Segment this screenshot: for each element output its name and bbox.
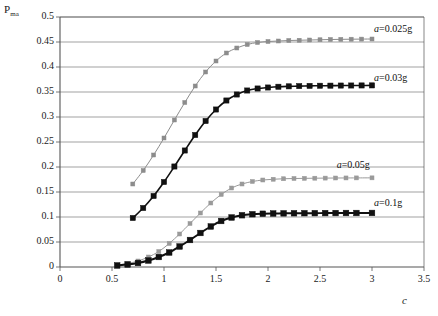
series-marker [125,262,131,268]
series-marker [250,211,256,217]
x-tick-label: 1.5 [196,274,236,284]
series-marker [234,92,239,97]
y-tick-label: 0.15 [37,186,55,196]
series-marker [317,83,322,88]
y-tick-label: 0.3 [42,111,55,121]
series-marker [224,51,228,55]
y-tick-label: 0.1 [42,211,55,221]
series-marker [157,250,161,254]
y-tick-label: 0.05 [37,236,55,246]
series-marker [312,210,318,216]
series-marker [276,84,281,89]
series-marker [265,85,270,90]
series-marker [166,250,172,256]
x-tick-label: 3 [352,274,392,284]
series-marker [130,215,135,220]
series-marker [114,263,120,269]
series-marker [338,83,343,88]
series-marker [318,38,322,42]
series-marker [369,83,374,88]
y-tick-label: 0 [49,261,54,271]
x-tick-label: 0 [40,274,80,284]
x-tick-label: 1 [144,274,184,284]
y-tick-label: 0.5 [42,11,55,21]
series-marker [230,186,234,190]
series-marker [151,193,156,198]
series-marker [266,40,270,44]
series-marker [156,254,162,260]
series-marker [178,232,182,236]
series-marker [276,39,280,43]
x-tick-label: 2 [248,274,288,284]
series-marker [271,177,275,181]
series-marker [240,182,244,186]
series-marker [224,98,229,103]
series-marker [369,210,375,216]
series-marker [360,37,364,41]
series-marker [172,118,176,122]
series-marker [208,224,214,230]
y-tick-label: 0.25 [37,136,55,146]
series-marker [188,222,192,226]
tick-marks [56,17,424,271]
x-tick-label: 0.5 [92,274,132,284]
series-marker [370,176,374,180]
series-marker [250,180,254,184]
y-tick-label: 0.2 [42,161,55,171]
series-marker [183,101,187,105]
y-tick-label: 0.4 [42,61,55,71]
series-marker [187,237,193,243]
series-marker [370,37,374,41]
series-label-value: =0.03g [379,72,407,83]
series-label-value: =0.05g [342,159,370,170]
series-marker [328,38,332,42]
series-marker [291,210,297,216]
series-label-2: a=0.05g [337,160,370,170]
series-marker [328,83,333,88]
series-marker [260,211,266,217]
series-marker [204,70,208,74]
series-marker [292,177,296,181]
series-line [133,85,372,218]
series-marker [162,136,166,140]
y-tick-label: 0.35 [37,86,55,96]
series-3 [114,210,374,268]
series-marker [339,37,343,41]
series-marker [146,258,152,264]
series-marker [131,182,135,186]
plot-area [0,0,438,316]
x-axis-label: c [402,295,407,306]
series-marker [349,37,353,41]
x-tick-label: 3.5 [404,274,438,284]
series-2 [115,176,374,267]
series-marker [297,38,301,42]
series-marker [198,230,204,236]
series-marker [256,41,260,45]
series-marker [282,177,286,181]
series-marker [213,107,218,112]
series-marker [214,59,218,63]
series-marker [343,210,349,216]
series-marker [218,218,224,224]
series-marker [245,88,250,93]
series-marker [172,164,177,169]
series-marker [281,211,287,217]
series-marker [270,211,276,217]
series-marker [334,176,338,180]
series-marker [193,84,197,88]
series-marker [287,39,291,43]
series-marker [152,153,156,157]
series-marker [239,212,245,218]
series-marker [349,83,354,88]
series-marker [198,211,202,215]
gridlines [60,17,424,242]
series-marker [193,132,198,137]
series-marker [323,176,327,180]
series-marker [333,210,339,216]
series-marker [161,179,166,184]
series-marker [354,210,360,216]
series-marker [167,242,171,246]
series-marker [255,86,260,91]
series-1 [130,83,374,221]
series-marker [286,84,291,89]
